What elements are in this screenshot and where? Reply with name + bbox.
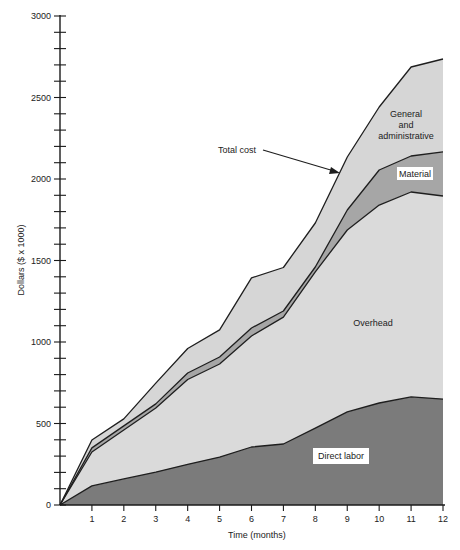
stacked-areas: [60, 59, 443, 505]
x-tick-label: 4: [185, 514, 190, 524]
x-axis-title: Time (months): [228, 530, 286, 540]
overhead-label: Overhead: [353, 318, 393, 328]
direct-labor-label: Direct labor: [318, 451, 364, 461]
chart-canvas: 050010001500200025003000123456789101112 …: [0, 0, 460, 550]
total-cost-arrow: [263, 150, 340, 174]
ga-label-line1: General: [390, 109, 422, 119]
y-tick-label: 1500: [31, 256, 51, 266]
x-tick-label: 1: [89, 514, 94, 524]
y-axis-title: Dollars ($ x 1000): [16, 224, 26, 295]
x-tick-label: 2: [121, 514, 126, 524]
ga-label-line2: and: [398, 120, 413, 130]
x-tick-label: 10: [374, 514, 384, 524]
y-tick-label: 500: [36, 419, 51, 429]
material-label: Material: [399, 169, 431, 179]
x-tick-label: 5: [217, 514, 222, 524]
x-tick-label: 3: [153, 514, 158, 524]
y-tick-label: 2500: [31, 93, 51, 103]
y-tick-label: 3000: [31, 11, 51, 21]
y-tick-label: 1000: [31, 337, 51, 347]
x-tick-label: 9: [345, 514, 350, 524]
y-tick-label: 2000: [31, 174, 51, 184]
x-tick-label: 7: [281, 514, 286, 524]
chart: 050010001500200025003000123456789101112 …: [0, 0, 460, 550]
x-tick-label: 6: [249, 514, 254, 524]
x-tick-label: 11: [406, 514, 415, 524]
x-tick-label: 12: [438, 514, 448, 524]
x-tick-label: 8: [313, 514, 318, 524]
y-tick-label: 0: [46, 500, 51, 510]
total-cost-label: Total cost: [218, 145, 257, 155]
ga-label-line3: administrative: [378, 131, 434, 141]
